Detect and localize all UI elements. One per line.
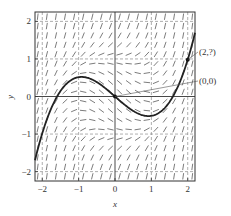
- slope-mark: [81, 52, 85, 57]
- slope-mark: [82, 33, 84, 39]
- slope-mark: [72, 127, 76, 132]
- slope-mark: [128, 14, 130, 20]
- slope-mark: [146, 33, 148, 39]
- slope-mark: [63, 90, 68, 94]
- slope-mark: [101, 173, 103, 179]
- slope-mark: [80, 100, 86, 101]
- slope-mark: [108, 71, 113, 74]
- slope-mark: [37, 173, 38, 179]
- slope-mark: [55, 164, 56, 170]
- slope-mark: [89, 109, 95, 112]
- slope-mark: [182, 51, 184, 57]
- slope-mark: [163, 70, 167, 75]
- slope-mark: [164, 23, 165, 29]
- slope-mark: [174, 23, 175, 29]
- slope-mark: [82, 145, 85, 151]
- slope-mark: [146, 164, 148, 170]
- slope-mark: [64, 145, 66, 151]
- slope-mark: [144, 82, 150, 83]
- slope-mark: [155, 32, 157, 38]
- slope-mark: [183, 14, 184, 20]
- slope-mark: [153, 109, 159, 111]
- slope-mark: [72, 61, 76, 66]
- slope-mark: [80, 119, 86, 120]
- slope-mark: [109, 23, 111, 29]
- slope-mark: [144, 110, 150, 111]
- slope-mark: [64, 164, 65, 170]
- slope-mark: [92, 14, 94, 20]
- slope-mark: [46, 42, 47, 48]
- slope-mark: [117, 90, 122, 95]
- slope-mark: [37, 32, 38, 38]
- slope-mark: [37, 14, 38, 20]
- slope-mark: [117, 80, 122, 84]
- y-tick-label: 0: [27, 92, 32, 102]
- slope-mark: [126, 81, 131, 85]
- slope-mark: [82, 23, 84, 29]
- slope-mark: [135, 52, 140, 56]
- slope-mark: [46, 79, 48, 85]
- slope-mark: [144, 62, 150, 65]
- slope-mark: [125, 63, 131, 64]
- slope-mark: [144, 100, 150, 101]
- slope-mark: [109, 155, 112, 161]
- slope-mark: [173, 154, 174, 160]
- slope-mark: [90, 137, 95, 141]
- slope-mark: [98, 63, 104, 64]
- slope-mark: [64, 136, 67, 142]
- slope-mark: [172, 98, 175, 104]
- slope-mark: [108, 108, 113, 112]
- slope-mark: [55, 51, 57, 57]
- x-tick-label: 0: [113, 184, 118, 194]
- slope-mark: [119, 14, 121, 20]
- slope-mark: [37, 126, 38, 132]
- slope-mark: [126, 90, 131, 94]
- slope-mark: [164, 154, 166, 160]
- slope-mark: [64, 154, 66, 160]
- slope-mark: [192, 32, 193, 38]
- slope-mark: [108, 99, 113, 104]
- y-tick-label: −2: [21, 167, 31, 177]
- slope-mark: [192, 14, 193, 20]
- slope-mark: [173, 108, 176, 114]
- slope-mark: [154, 127, 158, 132]
- slope-mark: [89, 72, 95, 73]
- slope-mark: [192, 164, 193, 170]
- slope-mark: [182, 98, 184, 104]
- slope-mark: [37, 70, 39, 76]
- slope-mark: [110, 14, 112, 20]
- slope-mark: [46, 14, 47, 20]
- slope-field-chart: (2,?)(0,0) −2−1012−2−1012 x y: [0, 0, 231, 216]
- slope-mark: [137, 173, 139, 179]
- slope-mark: [173, 51, 175, 57]
- slope-mark: [55, 23, 56, 29]
- slope-mark: [90, 146, 94, 151]
- slope-mark: [91, 164, 93, 170]
- slope-mark: [37, 79, 39, 85]
- slope-mark: [108, 80, 113, 84]
- slope-mark: [182, 79, 184, 85]
- slope-mark: [182, 42, 183, 48]
- y-tick-label: −1: [21, 129, 31, 139]
- slope-mark: [137, 23, 139, 29]
- slope-mark: [164, 145, 166, 151]
- slope-mark: [126, 119, 132, 122]
- slope-mark: [173, 61, 175, 67]
- slope-mark: [99, 146, 103, 151]
- slope-mark: [117, 108, 122, 112]
- slope-mark: [182, 136, 184, 142]
- slope-mark: [192, 126, 193, 132]
- slope-mark: [80, 62, 86, 65]
- slope-mark: [173, 80, 176, 86]
- slope-mark: [183, 173, 184, 179]
- slope-mark: [192, 61, 193, 67]
- slope-mark: [116, 53, 122, 55]
- slope-mark: [90, 42, 94, 47]
- slope-mark: [164, 136, 167, 142]
- slope-mark: [109, 33, 112, 39]
- slope-mark: [155, 154, 157, 160]
- slope-mark: [135, 137, 140, 141]
- slope-mark: [89, 129, 95, 130]
- slope-mark: [63, 117, 67, 122]
- slope-mark: [164, 51, 167, 57]
